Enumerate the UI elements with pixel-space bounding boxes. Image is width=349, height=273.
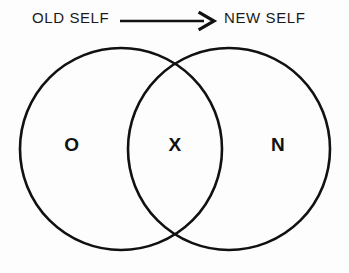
right-circle-letter: N — [258, 135, 298, 155]
intersection-letter: X — [155, 135, 195, 155]
left-circle-letter: O — [52, 135, 92, 155]
venn-diagram-canvas: OLD SELF NEW SELF O X N — [0, 0, 349, 273]
venn-circles: O X N — [0, 0, 349, 273]
